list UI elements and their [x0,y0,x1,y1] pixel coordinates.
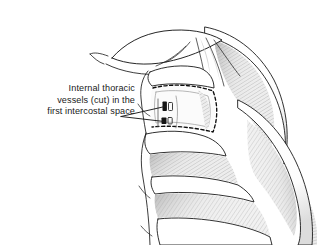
rib-sternal-1 [145,131,226,156]
clavicle [112,30,222,64]
annotation-label-line-3: first intercostal space [0,106,135,118]
annotation-label-line-1: Internal thoracic [0,83,135,95]
thoracic-wall-illustration [0,0,317,245]
intercostal-space-window [151,86,216,131]
anatomical-figure: Internal thoracic vessels (cut) in the f… [0,0,317,245]
annotation-label-line-2: vessels (cut) in the [0,95,135,107]
